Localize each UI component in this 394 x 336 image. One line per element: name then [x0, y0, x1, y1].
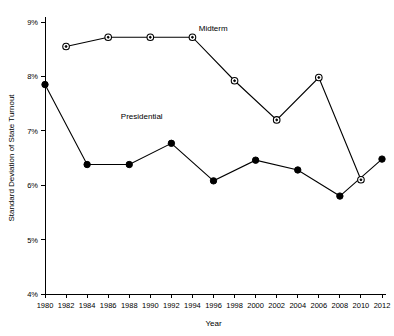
data-point-presidential-2004 — [295, 167, 301, 173]
line-chart: 4%5%6%7%8%9% 198019821984198619881990199… — [0, 0, 394, 336]
data-point-center-midterm-1986 — [107, 36, 109, 38]
x-axis-title: Year — [205, 319, 222, 328]
chart-container: 4%5%6%7%8%9% 198019821984198619881990199… — [0, 0, 394, 336]
data-point-presidential-1988 — [126, 161, 132, 167]
x-tick-label: 1998 — [226, 301, 243, 310]
x-tick-label: 2008 — [332, 301, 349, 310]
x-tick-label: 1988 — [121, 301, 138, 310]
series-annotation-midterm: Midterm — [199, 24, 228, 33]
x-tick-label: 2012 — [374, 301, 391, 310]
series-line-midterm — [66, 37, 361, 180]
series-annotation-presidential: Presidential — [121, 112, 163, 121]
data-point-center-midterm-1990 — [149, 36, 151, 38]
data-point-presidential-1996 — [210, 178, 216, 184]
data-point-presidential-1980 — [42, 81, 48, 87]
y-tick-label: 7% — [27, 127, 38, 136]
y-tick-label: 6% — [27, 181, 38, 190]
data-point-center-midterm-2010 — [360, 179, 362, 181]
x-tick-label: 1980 — [37, 301, 54, 310]
y-tick-label: 4% — [27, 290, 38, 299]
y-tick-label: 5% — [27, 236, 38, 245]
x-tick-label: 1986 — [100, 301, 117, 310]
x-tick-label: 2004 — [289, 301, 306, 310]
x-tick-label: 2000 — [247, 301, 264, 310]
data-point-presidential-1984 — [84, 161, 90, 167]
data-point-center-midterm-2002 — [276, 119, 278, 121]
y-axis-title: Standard Deviation of State Turnout — [7, 94, 16, 222]
y-axis: 4%5%6%7%8%9% — [27, 17, 45, 299]
data-point-center-midterm-1982 — [65, 46, 67, 48]
x-tick-label: 2002 — [268, 301, 285, 310]
x-tick-label: 2010 — [353, 301, 370, 310]
data-series-group — [42, 34, 385, 199]
series-annotations: PresidentialMidterm — [121, 24, 228, 121]
x-tick-label: 1992 — [163, 301, 180, 310]
y-tick-label: 9% — [27, 18, 38, 27]
x-tick-label: 1990 — [142, 301, 159, 310]
data-point-presidential-2008 — [337, 193, 343, 199]
data-point-presidential-1992 — [168, 140, 174, 146]
data-point-center-midterm-1998 — [234, 80, 236, 82]
data-point-center-midterm-2006 — [318, 77, 320, 79]
x-tick-label: 1994 — [184, 301, 201, 310]
x-tick-label: 1984 — [79, 301, 96, 310]
x-tick-label: 1996 — [205, 301, 222, 310]
y-tick-label: 8% — [27, 72, 38, 81]
x-tick-label: 1982 — [58, 301, 75, 310]
x-axis: 1980198219841986198819901992199419961998… — [37, 294, 391, 310]
data-point-presidential-2000 — [252, 157, 258, 163]
data-point-presidential-2012 — [379, 156, 385, 162]
data-point-center-midterm-1994 — [192, 36, 194, 38]
x-tick-label: 2006 — [310, 301, 327, 310]
